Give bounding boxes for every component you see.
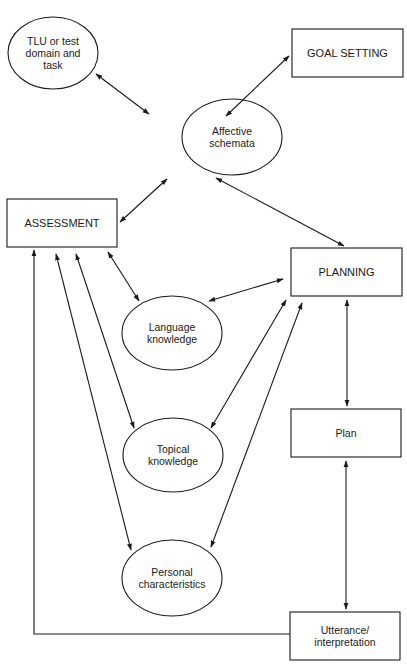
edge-utterance-assessment	[34, 250, 290, 634]
diagram-canvas	[0, 0, 407, 665]
personal-node-shape	[122, 540, 222, 616]
edge-affective-assessment	[120, 179, 167, 222]
edge-assessment-language	[108, 252, 139, 301]
edge-language-planning	[209, 279, 283, 301]
plan-node-shape	[291, 409, 401, 457]
edge-personal-planning	[211, 303, 302, 547]
language-node-shape	[122, 296, 222, 370]
edge-tlu-affective	[96, 74, 149, 114]
planning-node-shape	[291, 248, 402, 296]
assessment-node-shape	[7, 199, 117, 247]
edge-affective-planning	[216, 178, 344, 246]
edge-topical-planning	[211, 300, 286, 428]
tlu-node-shape	[8, 17, 98, 89]
edge-goal-affective	[226, 56, 289, 116]
edge-assessment-personal	[56, 254, 131, 550]
topical-node-shape	[123, 418, 223, 492]
utterance-node-shape	[290, 612, 400, 660]
goal-setting-node-shape	[292, 29, 403, 77]
